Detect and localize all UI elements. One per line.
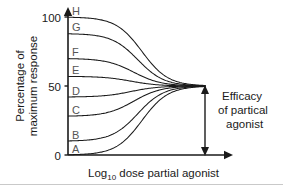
curve-label-a: A [72, 143, 80, 155]
x-axis-title: Log10 dose partial agonist [88, 167, 220, 182]
svg-text:Log10 dose partial agonist: Log10 dose partial agonist [88, 167, 220, 182]
x-axis-title-suffix: dose partial agonist [116, 167, 220, 179]
y-tick-labels: 100 50 0 [42, 12, 61, 162]
curve-b [68, 86, 205, 141]
chart-canvas: 100 50 0 Percentage of maximum response … [0, 0, 283, 185]
y-axis-arrowhead [64, 7, 72, 16]
curve-group [68, 17, 205, 155]
efficacy-annotation: Efficacy of partical agonist [201, 85, 268, 156]
y-axis-title-line2: maximum response [27, 36, 39, 136]
efficacy-label-line2: of partical [218, 104, 268, 116]
y-axis-title: Percentage of maximum response [14, 36, 39, 136]
axis-group [64, 7, 233, 159]
curve-label-d: D [72, 85, 80, 97]
curve-label-b: B [72, 129, 79, 141]
y-tick-label-50: 50 [48, 81, 61, 93]
curve-label-c: C [72, 104, 80, 116]
figure-bottom-rule [0, 184, 283, 185]
efficacy-label-line3: agonist [226, 118, 264, 130]
x-axis-title-prefix: Log [88, 167, 107, 179]
curve-label-f: F [72, 46, 79, 58]
y-tick-label-100: 100 [42, 12, 61, 24]
dose-response-chart: 100 50 0 Percentage of maximum response … [0, 0, 283, 185]
curve-label-group: ABCDEFGH [72, 5, 81, 155]
curve-h [68, 17, 205, 86]
y-tick-label-0: 0 [55, 150, 61, 162]
y-axis-title-line1: Percentage of [14, 49, 26, 121]
curve-label-g: G [72, 21, 81, 33]
curve-label-h: H [72, 5, 80, 17]
curve-label-e: E [72, 64, 79, 76]
efficacy-label-line1: Efficacy [222, 90, 262, 102]
x-axis-arrowhead [224, 151, 233, 159]
